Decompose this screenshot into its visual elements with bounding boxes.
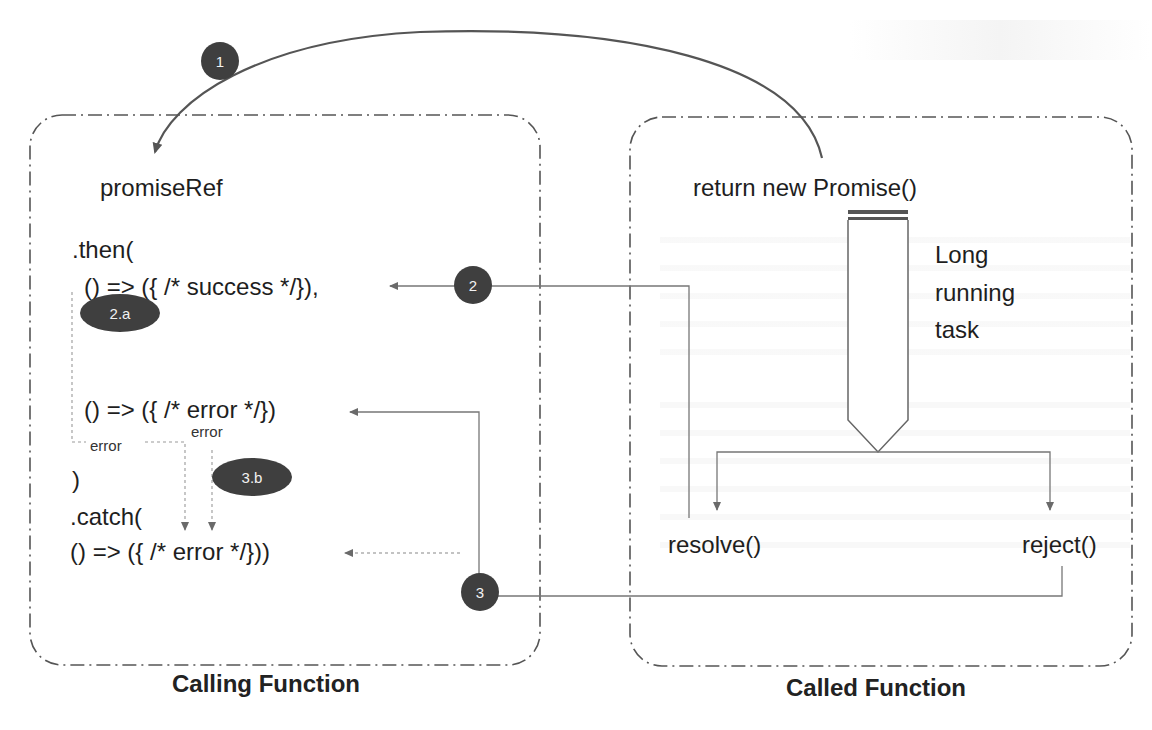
promise-ref-text: promiseRef: [100, 176, 223, 200]
step-1-badge: 1: [201, 42, 239, 80]
step-1-curve-arrow: [155, 31, 822, 158]
calling-function-caption: Calling Function: [172, 672, 360, 696]
reject-text: reject(): [1022, 533, 1097, 557]
task-label-line-2: running: [935, 281, 1015, 305]
called-function-caption: Called Function: [786, 676, 966, 700]
step-3-reject-connector: [485, 566, 1062, 596]
step-2a-error-propagation-h: [145, 442, 185, 530]
step-3-badge: 3: [461, 573, 499, 611]
then-open-text: .then(: [72, 238, 133, 262]
branch-to-reject: [878, 452, 1050, 510]
step-3b-badge: 3.b: [212, 458, 292, 496]
error-handler-text: () => ({ /* error */}): [84, 398, 276, 422]
catch-handler-text: () => ({ /* error */})): [70, 540, 270, 564]
step-2-badge: 2: [454, 266, 492, 304]
then-close-text: ): [72, 468, 80, 492]
diagram-canvas: [0, 0, 1152, 730]
step-2a-badge: 2.a: [80, 294, 160, 332]
branch-to-resolve: [717, 452, 878, 510]
task-label-line-1: Long: [935, 243, 988, 267]
error-label-1: error: [90, 438, 122, 453]
step-3-error-handler-connector: [350, 412, 479, 590]
long-running-task-shape: [848, 210, 908, 452]
resolve-text: resolve(): [668, 533, 761, 557]
catch-open-text: .catch(: [70, 505, 142, 529]
return-promise-text: return new Promise(): [693, 176, 917, 200]
error-label-2: error: [191, 424, 223, 439]
task-label-line-3: task: [935, 318, 979, 342]
